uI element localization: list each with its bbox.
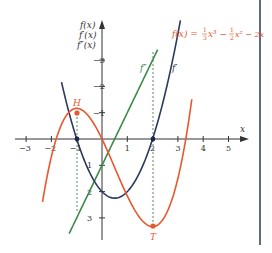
frac2-num: 1 — [230, 26, 234, 33]
x-tick-label: 1 — [125, 144, 130, 153]
y-axis-label-fpp: f″(x) — [76, 40, 96, 50]
x-axis-arrow-icon — [240, 136, 249, 142]
y-tick-label: −2 — [93, 82, 105, 91]
formula-term2: x² − 2x — [235, 30, 265, 39]
y-tick-label: 3 — [87, 214, 92, 223]
label-f-prime: f′ — [171, 63, 177, 73]
frac1-num: 1 — [203, 26, 207, 33]
point-T — [150, 223, 155, 228]
label-H: H — [72, 98, 81, 108]
axes — [15, 26, 245, 240]
function-plot: −3−2−112345321−1−2−3 H T f″ f′ x f(x) f′… — [0, 0, 272, 253]
x-tick-label: 4 — [201, 144, 206, 153]
root-fp-minus1 — [75, 137, 80, 142]
formula-lhs: f(x) = — [171, 29, 198, 39]
y-axis-arrow-icon — [99, 20, 105, 29]
formula-term1: x³ − — [208, 29, 227, 39]
label-T: T — [150, 232, 157, 242]
curve-f-double-prime — [69, 50, 158, 234]
frac1-den: 3 — [203, 34, 207, 41]
label-f-double-prime: f″ — [139, 63, 147, 73]
x-axis-label: x — [240, 124, 245, 134]
frac2-den: 2 — [230, 34, 234, 41]
x-tick-label: 5 — [226, 144, 231, 153]
root-fp-2 — [151, 137, 156, 142]
x-tick-label: −3 — [19, 144, 31, 153]
y-tick-label: −3 — [93, 56, 105, 65]
function-formula: f(x) = 1 3 x³ − 1 2 x² − 2x — [171, 26, 265, 41]
curve-f — [43, 99, 192, 226]
y-tick-label: −1 — [93, 109, 105, 118]
y-axis-label-fp: f′(x) — [78, 30, 97, 40]
point-H — [74, 110, 79, 115]
x-tick-label: 3 — [175, 144, 180, 153]
y-axis-label-f: f(x) — [79, 20, 96, 30]
